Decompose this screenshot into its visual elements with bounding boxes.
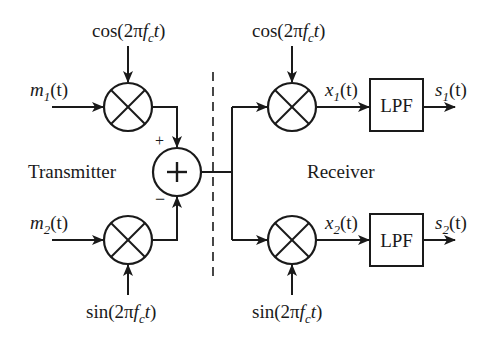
rx-multiplier-2-icon: [268, 216, 316, 264]
rx-cos-carrier-label: cos(2πfct): [252, 20, 325, 45]
adder-plus-sign: +: [155, 132, 164, 149]
tx-sin-carrier-label: sin(2πfct): [86, 301, 156, 326]
lpf-1-block: LPF: [370, 79, 423, 131]
transmitter-label: Transmitter: [28, 161, 117, 182]
lpf-2-label: LPF: [380, 230, 413, 251]
rx-sin-carrier-label: sin(2πfct): [252, 301, 322, 326]
signal-x2-label: x2(t): [324, 212, 358, 237]
receiver-label: Receiver: [307, 161, 375, 182]
quadrature-modulation-diagram: m1(t) cos(2πfct) + Transmitter − m2(t) s…: [0, 0, 495, 345]
tx-multiplier-2-icon: [104, 216, 152, 264]
signal-x1-label: x1(t): [324, 79, 358, 104]
tx-multiplier-1-icon: [104, 83, 152, 131]
rx-multiplier-1-icon: [268, 83, 316, 131]
input-m1-label: m1(t): [30, 79, 68, 104]
lpf-2-block: LPF: [370, 214, 423, 266]
output-s1-label: s1(t): [435, 79, 467, 104]
lpf-1-label: LPF: [380, 95, 413, 116]
tx-cos-carrier-label: cos(2πfct): [92, 20, 165, 45]
input-m2-label: m2(t): [30, 212, 68, 237]
adder-minus-sign: −: [155, 189, 165, 209]
output-s2-label: s2(t): [435, 212, 467, 237]
